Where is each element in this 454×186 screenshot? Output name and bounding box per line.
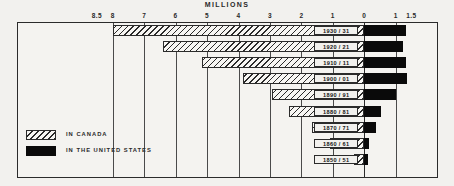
bar-row: 1900 / 01 [18, 73, 437, 84]
bar-united-states [364, 57, 406, 68]
bar-period-label: 1860 / 61 [314, 139, 358, 148]
bar-united-states [364, 41, 402, 52]
bar-period-label: 1920 / 21 [314, 42, 358, 51]
bar-united-states [364, 138, 369, 149]
axis-tick-2: 2 [299, 12, 303, 19]
axis-tick-1: 1 [394, 12, 398, 19]
bar-united-states [364, 122, 376, 133]
chart-root: MILLIONS 8.587654321011.5 1930 / 311920 … [0, 0, 454, 186]
bar-period-label: 1890 / 91 [314, 90, 358, 99]
axis-tick-7: 7 [142, 12, 146, 19]
axis-tick-4: 4 [236, 12, 240, 19]
legend-swatch-united-states [26, 146, 56, 156]
bar-row: 1930 / 31 [18, 25, 437, 36]
axis-tick-1-5: 1.5 [406, 12, 416, 19]
bar-row: 1890 / 91 [18, 89, 437, 100]
bar-united-states [364, 73, 407, 84]
axis-tick-6: 6 [174, 12, 178, 19]
bar-row: 1910 / 11 [18, 57, 437, 68]
axis-tick-8: 8 [111, 12, 115, 19]
axis-tick-1: 1 [331, 12, 335, 19]
chart-title: MILLIONS [0, 1, 454, 8]
legend-label: IN THE UNITED STATES [66, 147, 152, 153]
bar-period-label: 1930 / 31 [314, 26, 358, 35]
bar-row: 1880 / 81 [18, 106, 437, 117]
legend-label: IN CANADA [66, 131, 108, 137]
bar-united-states [364, 89, 395, 100]
axis-tick-5: 5 [205, 12, 209, 19]
legend-swatch-canada [26, 130, 56, 140]
bar-united-states [364, 25, 406, 36]
bar-period-label: 1870 / 71 [314, 123, 358, 132]
bar-period-label: 1900 / 01 [314, 74, 358, 83]
bars-container: 1930 / 311920 / 211910 / 111900 / 011890… [18, 23, 437, 177]
bar-united-states [364, 154, 368, 165]
bar-united-states [364, 106, 380, 117]
bar-row: 1850 / 51 [18, 154, 437, 165]
axis-tick-0: 0 [362, 12, 366, 19]
bar-period-label: 1850 / 51 [314, 155, 358, 164]
axis-tick-8-5: 8.5 [92, 12, 102, 19]
plot-frame: 1930 / 311920 / 211910 / 111900 / 011890… [17, 22, 438, 178]
axis-tick-3: 3 [268, 12, 272, 19]
bar-period-label: 1880 / 81 [314, 107, 358, 116]
bar-period-label: 1910 / 11 [314, 58, 358, 67]
bar-row: 1920 / 21 [18, 41, 437, 52]
